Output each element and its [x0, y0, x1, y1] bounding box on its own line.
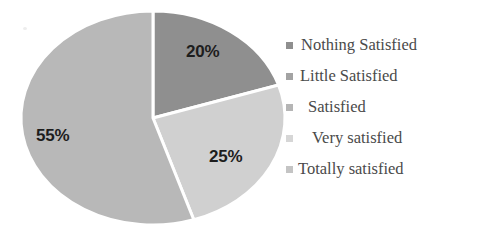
pie-chart-figure: 20% 25% 55% Nothing Satisfied Little Sat…: [0, 0, 481, 241]
legend-square-marker-icon: [286, 42, 293, 49]
pie-slice-label-nothing-satisfied: 20%: [186, 43, 219, 60]
legend-item-nothing-satisfied[interactable]: Nothing Satisfied: [286, 34, 417, 57]
legend-item-label: Little Satisfied: [300, 68, 398, 85]
pie-slice-label-totally-satisfied: 55%: [36, 127, 69, 144]
scan-artifact-speck: [23, 27, 27, 30]
legend-square-marker-icon: [286, 166, 293, 173]
pie-chart-plot-area: 20% 25% 55%: [0, 0, 292, 241]
legend-item-very-satisfied[interactable]: Very satisfied: [286, 127, 402, 150]
pie-chart-svg: [0, 0, 292, 241]
legend-item-label: Totally satisfied: [298, 161, 404, 178]
legend-item-satisfied[interactable]: Satisfied: [286, 96, 366, 119]
legend-square-marker-icon: [286, 135, 293, 142]
legend-square-marker-icon: [286, 104, 293, 111]
pie-slice-label-little-satisfied: 25%: [209, 148, 242, 165]
legend-item-little-satisfied[interactable]: Little Satisfied: [286, 65, 398, 88]
legend-item-totally-satisfied[interactable]: Totally satisfied: [286, 158, 404, 181]
legend-square-marker-icon: [286, 73, 293, 80]
legend-item-label: Nothing Satisfied: [301, 37, 417, 54]
chart-legend: Nothing Satisfied Little Satisfied Satis…: [286, 34, 481, 206]
legend-item-label: Very satisfied: [312, 130, 402, 147]
legend-item-label: Satisfied: [308, 99, 366, 116]
